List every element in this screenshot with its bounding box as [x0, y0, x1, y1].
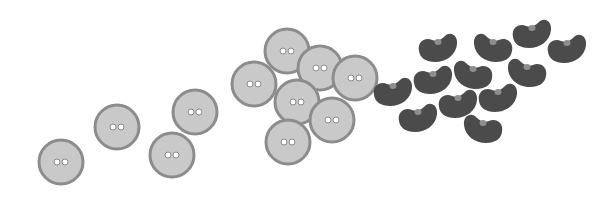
- bean-icon: [454, 61, 492, 89]
- button-icon: [150, 133, 194, 177]
- bean-icon: [464, 115, 502, 143]
- bean-icon: [419, 34, 457, 62]
- button-icon: [39, 140, 83, 184]
- bean-icon: [414, 66, 452, 94]
- bean-icon: [399, 104, 437, 132]
- bean-icon: [513, 20, 551, 48]
- button-icon: [173, 90, 217, 134]
- bean-icon: [474, 34, 512, 62]
- bean-icon: [548, 35, 586, 63]
- button-icon: [232, 62, 276, 106]
- button-icon: [310, 98, 354, 142]
- button-icon: [95, 105, 139, 149]
- button-icon: [266, 120, 310, 164]
- bean-icon: [508, 59, 546, 87]
- buttons-and-beans-illustration: [0, 0, 615, 201]
- beans-group: [374, 20, 586, 143]
- bean-icon: [479, 84, 517, 112]
- buttons-group: [39, 29, 377, 184]
- bean-icon: [439, 90, 477, 118]
- button-icon: [333, 56, 377, 100]
- bean-icon: [374, 78, 412, 106]
